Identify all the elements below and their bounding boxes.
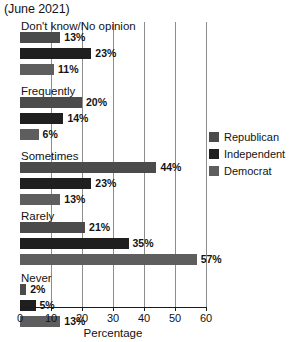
tick-mark: [113, 307, 114, 311]
tick-mark: [144, 307, 145, 311]
tick-label: 30: [107, 312, 119, 324]
bar: [20, 64, 54, 75]
bar: [20, 222, 85, 233]
bar: [20, 300, 36, 311]
tick-label: 0: [17, 312, 23, 324]
legend-swatch: [209, 149, 219, 159]
tick-label: 10: [45, 312, 57, 324]
bar-value-label: 11%: [58, 63, 78, 75]
bar: [20, 194, 60, 205]
bar: [20, 238, 129, 249]
legend-swatch: [209, 166, 219, 176]
bar: [20, 254, 197, 265]
plot-area: 13%23%11%20%14%6%44%23%13%21%35%57%2%5%1…: [20, 22, 206, 307]
legend-label: Republican: [224, 131, 279, 143]
category-label: Rarely: [21, 210, 54, 222]
legend-label: Democrat: [224, 165, 272, 177]
bar-value-label: 13%: [64, 193, 85, 205]
bar-value-label: 23%: [95, 177, 116, 189]
category-label: Never: [21, 272, 52, 284]
chart-title: (June 2021): [4, 2, 70, 16]
bar: [20, 113, 63, 124]
bar-value-label: 21%: [89, 221, 110, 233]
bar-value-label: 57%: [201, 253, 222, 265]
bar-value-label: 23%: [95, 47, 116, 59]
bar: [20, 129, 39, 140]
bar: [20, 178, 91, 189]
chart-legend: RepublicanIndependentDemocrat: [209, 128, 301, 179]
bar-value-label: 2%: [30, 283, 45, 295]
bar-value-label: 14%: [67, 112, 88, 124]
category-label: Don't know/No opinion: [21, 20, 136, 32]
tick-mark: [206, 307, 207, 311]
legend-item[interactable]: Republican: [209, 128, 301, 145]
bar-value-label: 20%: [86, 96, 107, 108]
legend-label: Independent: [224, 148, 285, 160]
bar: [20, 162, 156, 173]
tick-mark: [82, 307, 83, 311]
legend-item[interactable]: Democrat: [209, 162, 301, 179]
bar-value-label: 35%: [133, 237, 154, 249]
bar: [20, 32, 60, 43]
bar: [20, 284, 26, 295]
tick-mark: [20, 307, 21, 311]
bar-value-label: 13%: [64, 31, 85, 43]
x-axis-label: Percentage: [84, 327, 143, 339]
bar: [20, 48, 91, 59]
tick-label: 40: [138, 312, 150, 324]
bar-value-label: 5%: [40, 299, 55, 311]
category-label: Sometimes: [21, 150, 79, 162]
legend-swatch: [209, 132, 219, 142]
bar: [20, 97, 82, 108]
tick-label: 50: [169, 312, 181, 324]
tick-mark: [51, 307, 52, 311]
bar-chart: (June 2021) 13%23%11%20%14%6%44%23%13%21…: [0, 0, 302, 342]
tick-label: 60: [200, 312, 212, 324]
legend-item[interactable]: Independent: [209, 145, 301, 162]
tick-mark: [175, 307, 176, 311]
bar-value-label: 44%: [160, 161, 181, 173]
category-label: Frequently: [21, 85, 75, 97]
bar-value-label: 6%: [43, 128, 58, 140]
tick-label: 20: [76, 312, 88, 324]
